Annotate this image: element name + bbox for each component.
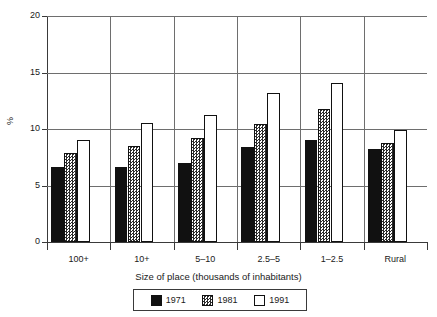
solid-black-swatch <box>151 295 162 306</box>
bar-1981-2.5–5 <box>254 124 267 242</box>
x-tick-mark <box>237 243 238 250</box>
legend-item-1971: 1971 <box>151 295 186 306</box>
legend-label: 1971 <box>166 295 186 305</box>
x-tick-mark <box>427 243 428 250</box>
bar-1991-10+ <box>141 123 154 242</box>
y-tick-label: 10 <box>18 124 40 133</box>
bar-1971-2.5–5 <box>241 147 254 242</box>
y-tick-label: 20 <box>18 11 40 20</box>
bar-1991-2.5–5 <box>267 93 280 242</box>
bar-1991-5–10 <box>204 115 217 242</box>
bar-1981-100+ <box>64 153 77 242</box>
category-label-Rural: Rural <box>364 254 427 264</box>
gridline-vertical <box>237 16 238 242</box>
chart-legend: 197119811991 <box>133 289 307 311</box>
x-tick-mark <box>47 243 48 250</box>
x-tick-mark <box>364 243 365 250</box>
bar-1971-5–10 <box>178 163 191 242</box>
y-tick-label: 15 <box>18 68 40 77</box>
x-axis-title: Size of place (thousands of inhabitants) <box>0 271 437 282</box>
bar-1971-1–2.5 <box>305 140 318 242</box>
bar-1981-10+ <box>128 146 141 242</box>
bar-1971-10+ <box>115 167 128 242</box>
legend-item-1991: 1991 <box>254 295 289 306</box>
x-tick-mark <box>174 243 175 250</box>
legend-label: 1991 <box>269 295 289 305</box>
legend-label: 1981 <box>217 295 237 305</box>
plot-area <box>47 16 427 242</box>
y-tick-label: 5 <box>18 181 40 190</box>
x-tick-mark <box>110 243 111 250</box>
checkered-gray-swatch <box>202 295 213 306</box>
bar-1991-1–2.5 <box>331 83 344 242</box>
gridline-vertical <box>110 16 111 242</box>
bar-1981-1–2.5 <box>318 109 331 242</box>
gridline-vertical <box>300 16 301 242</box>
x-tick-mark <box>300 243 301 250</box>
category-label-5–10: 5–10 <box>174 254 237 264</box>
category-label-2.5–5: 2.5–5 <box>237 254 300 264</box>
y-tick-label: 0 <box>18 237 40 246</box>
bar-1991-Rural <box>394 130 407 242</box>
bar-1971-Rural <box>368 149 381 242</box>
y-axis-title: % <box>5 113 15 129</box>
bar-1991-100+ <box>77 140 90 242</box>
legend-item-1981: 1981 <box>202 295 237 306</box>
category-label-100+: 100+ <box>47 254 110 264</box>
bar-1981-5–10 <box>191 138 204 242</box>
category-label-10+: 10+ <box>110 254 173 264</box>
category-label-1–2.5: 1–2.5 <box>300 254 363 264</box>
bar-1971-100+ <box>51 167 64 242</box>
gridline-vertical <box>364 16 365 242</box>
bar-chart: % 05101520 100+10+5–102.5–51–2.5Rural Si… <box>0 0 437 317</box>
white-outline-swatch <box>254 295 265 306</box>
gridline-vertical <box>174 16 175 242</box>
bar-1981-Rural <box>381 143 394 242</box>
